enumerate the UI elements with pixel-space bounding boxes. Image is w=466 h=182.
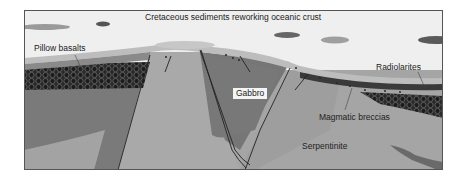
- lens-under-title: [155, 41, 215, 49]
- label-gabbro: Gabbro: [233, 88, 267, 99]
- lens-small-dark: [96, 22, 110, 27]
- geologic-cross-section: Cretaceous sediments reworking oceanic c…: [0, 0, 466, 182]
- lens-light-center: [321, 37, 349, 44]
- label-magmatic-breccias: Magmatic breccias: [319, 113, 390, 122]
- lens-dark-center: [274, 32, 300, 38]
- label-radiolarites: Radiolarites: [376, 63, 421, 72]
- label-serpentinite: Serpentinite: [302, 142, 347, 151]
- title-label: Cretaceous sediments reworking oceanic c…: [145, 13, 321, 22]
- lens-top-left: [20, 24, 70, 30]
- label-pillow-basalts: Pillow basalts: [34, 44, 86, 53]
- lens-dark-right: [418, 36, 454, 44]
